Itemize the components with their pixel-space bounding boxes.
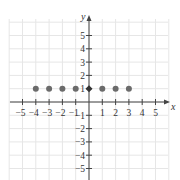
y-tick-label: 1	[80, 84, 85, 94]
y-tick-label: −5	[75, 164, 85, 174]
data-point	[86, 85, 93, 92]
x-tick-label: −4	[29, 108, 39, 118]
y-tick-label: −1	[75, 111, 85, 121]
y-tick-label: −4	[75, 151, 85, 161]
data-point	[59, 86, 65, 92]
y-tick-label: 4	[80, 44, 85, 54]
y-axis-label: y	[80, 11, 86, 22]
data-point	[113, 86, 119, 92]
data-point	[99, 86, 105, 92]
data-point	[33, 86, 39, 92]
y-tick-label: −3	[75, 137, 85, 147]
x-tick-label: 2	[113, 108, 118, 118]
x-tick-label: −2	[55, 108, 65, 118]
x-tick-label: 1	[100, 108, 105, 118]
data-point	[46, 86, 52, 92]
y-tick-label: 2	[80, 71, 85, 81]
x-tick-label: 3	[127, 108, 132, 118]
x-tick-label: −5	[15, 108, 25, 118]
y-axis-arrow-icon	[87, 15, 92, 21]
y-tick-label: 5	[80, 31, 85, 41]
y-tick-label: −2	[75, 124, 85, 134]
x-tick-label: −3	[42, 108, 52, 118]
x-tick-label: 5	[153, 108, 158, 118]
y-tick-label: 3	[80, 58, 85, 68]
data-point	[73, 86, 79, 92]
x-axis-label: x	[170, 101, 176, 112]
coordinate-plane: −5−4−3−2−112345 −5−4−3−2−112345 x y	[0, 0, 180, 180]
data-point	[126, 86, 132, 92]
x-tick-label: 4	[140, 108, 145, 118]
x-tick-labels: −5−4−3−2−112345	[15, 108, 158, 118]
